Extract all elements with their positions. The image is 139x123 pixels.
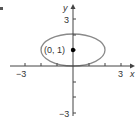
center-point [71, 48, 75, 52]
x-axis-arrow-icon [130, 64, 135, 69]
y-axis-arrow-icon [71, 4, 76, 9]
y-tick-label-neg3: −3 [59, 109, 69, 119]
x-tick-label-3: 3 [118, 69, 123, 79]
x-axis-label: x [129, 69, 135, 79]
y-tick-label-3: 3 [64, 15, 69, 25]
center-point-label: (0, 1) [44, 45, 65, 55]
x-tick-label-neg3: −3 [16, 69, 26, 79]
y-axis-label: y [62, 3, 68, 13]
ellipse-graph: y 3 −3 −3 3 x (0, 1) [0, 0, 139, 123]
